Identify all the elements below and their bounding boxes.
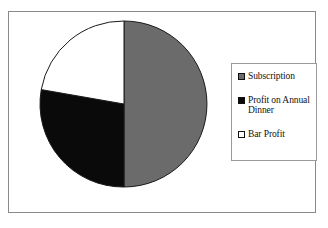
legend-label-bar-profit: Bar Profit xyxy=(248,129,285,140)
chart-legend: Subscription Profit on Annual Dinner Bar… xyxy=(231,63,317,161)
chart-frame: Subscription Profit on Annual Dinner Bar… xyxy=(8,11,316,213)
legend-swatch-subscription xyxy=(238,73,245,80)
legend-label-subscription: Subscription xyxy=(248,71,295,82)
legend-item-subscription[interactable]: Subscription xyxy=(238,71,312,82)
pie-chart-svg xyxy=(41,20,207,188)
pie-slice-profit-on-annual-dinner[interactable] xyxy=(40,90,124,187)
pie-slice-bar-profit[interactable] xyxy=(41,21,124,104)
pie-slice-subscription[interactable] xyxy=(124,21,207,187)
legend-swatch-bar-profit xyxy=(238,131,245,138)
legend-label-profit-on-annual-dinner: Profit on Annual Dinner xyxy=(248,95,312,116)
legend-swatch-profit-on-annual-dinner xyxy=(238,97,245,104)
legend-item-bar-profit[interactable]: Bar Profit xyxy=(238,129,312,140)
pie-chart xyxy=(41,20,207,188)
legend-item-profit-on-annual-dinner[interactable]: Profit on Annual Dinner xyxy=(238,95,312,116)
